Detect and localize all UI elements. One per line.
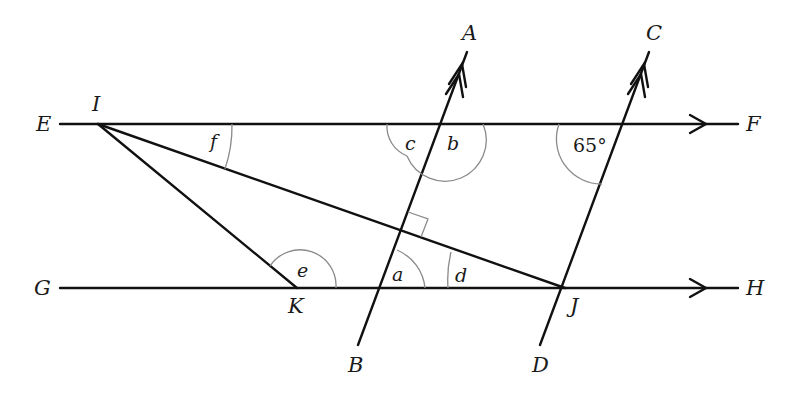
geometry-diagram: f c b 65° e a d E I F A C G K J H B D <box>0 0 805 405</box>
angle-label-65: 65° <box>573 134 607 156</box>
angle-label-f: f <box>208 130 220 152</box>
line-ab <box>358 52 467 345</box>
point-label-k: K <box>287 294 305 318</box>
point-label-b: B <box>347 353 363 377</box>
segment-ik <box>98 124 297 288</box>
angle-arc-d <box>448 252 451 288</box>
angle-label-c: c <box>405 132 416 154</box>
angle-label-e: e <box>297 259 308 281</box>
angle-label-d: d <box>455 264 467 286</box>
point-label-h: H <box>745 276 765 300</box>
angle-label-b: b <box>447 132 459 154</box>
line-cd <box>540 52 649 345</box>
point-label-j: J <box>566 294 580 318</box>
angle-arc-f <box>225 124 232 169</box>
point-label-c: C <box>646 21 662 45</box>
point-label-f: F <box>745 112 762 136</box>
point-label-i: I <box>91 92 101 116</box>
angle-arc-c <box>387 124 407 156</box>
point-label-g: G <box>34 276 51 300</box>
point-label-e: E <box>35 112 51 136</box>
point-label-a: A <box>460 21 477 45</box>
point-label-d: D <box>531 353 549 377</box>
segment-ij <box>98 124 565 288</box>
angle-label-a: a <box>392 263 403 285</box>
